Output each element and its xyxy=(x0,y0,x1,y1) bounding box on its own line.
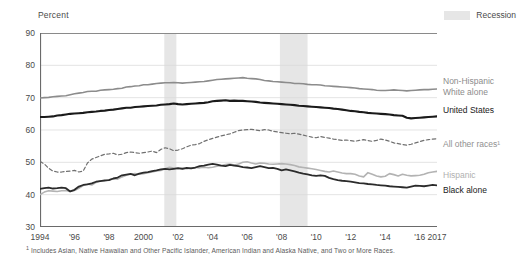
x-tick-label: '04 xyxy=(207,232,218,242)
y-tick-label: 40 xyxy=(26,190,35,200)
series-label-all-other-races: All other races¹ xyxy=(443,139,500,150)
x-tick-label: '02 xyxy=(173,232,184,242)
series-line xyxy=(40,78,437,98)
legend-recession: Recession xyxy=(444,10,516,20)
x-tick-label: '10 xyxy=(311,232,322,242)
series-line xyxy=(40,100,437,118)
series-label-black-alone: Black alone xyxy=(443,185,487,196)
x-tick-label: '14 xyxy=(380,232,391,242)
series-label-black-alone-text: Black alone xyxy=(443,185,487,196)
series-label-nhwhite: Non-HispanicWhite alone xyxy=(443,76,494,97)
series-label-nhwhite-text: Non-Hispanic xyxy=(443,76,494,87)
y-axis-title: Percent xyxy=(38,10,69,20)
x-tick-label: 2000 xyxy=(134,232,153,242)
y-tick-label: 60 xyxy=(26,125,35,135)
footnote: 1 Includes Asian, Native Hawaiian and Ot… xyxy=(26,245,395,254)
x-tick-label: '12 xyxy=(345,232,356,242)
x-tick-label: '06 xyxy=(242,232,253,242)
series-label-all-other-races-text: All other races¹ xyxy=(443,139,500,150)
series-label-united-states-text: United States xyxy=(443,105,494,116)
x-tick-label: '96 xyxy=(69,232,80,242)
y-tick-label: 80 xyxy=(26,60,35,70)
y-tick-label: 30 xyxy=(26,222,35,232)
series-line xyxy=(40,164,437,191)
y-tick-label: 70 xyxy=(26,93,35,103)
legend-recession-label: Recession xyxy=(476,10,516,20)
y-tick-label: 50 xyxy=(26,157,35,167)
homeownership-rate-chart: Percent Recession 30405060708090 1994'96… xyxy=(0,0,530,264)
series-label-united-states: United States xyxy=(443,105,494,116)
series-label-hispanic-text: Hispanic xyxy=(443,170,476,181)
x-tick-label: '16 xyxy=(414,232,425,242)
series-label-hispanic: Hispanic xyxy=(443,170,476,181)
x-tick-label: '98 xyxy=(103,232,114,242)
y-tick-label: 90 xyxy=(26,28,35,38)
recession-swatch-icon xyxy=(444,11,470,20)
plot-area: 30405060708090 1994'96'982000'02'04'06'0… xyxy=(40,33,437,227)
x-tick-label: 1994 xyxy=(31,232,50,242)
footnote-text: Includes Asian, Native Hawaiian and Othe… xyxy=(29,247,395,254)
x-tick-label: '08 xyxy=(276,232,287,242)
plot-svg xyxy=(40,33,437,227)
x-tick-label: 2017 xyxy=(428,232,447,242)
series-label-nhwhite-text: White alone xyxy=(443,87,494,98)
